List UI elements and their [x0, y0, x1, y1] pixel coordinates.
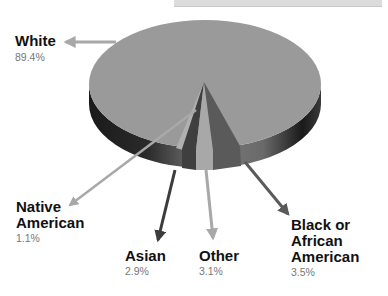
arrow-black — [245, 162, 288, 214]
pct-native-american: 1.1% — [16, 232, 40, 244]
pct-white: 89.4% — [15, 51, 45, 63]
label-native-american-line2: American — [16, 215, 84, 231]
label-asian: Asian — [125, 248, 166, 264]
label-native-american-line1: Native — [16, 199, 61, 215]
arrow-asian — [158, 170, 175, 240]
label-black-line1: Black or — [291, 217, 350, 233]
arrow-other — [206, 170, 213, 238]
label-black-line3: American — [291, 249, 359, 265]
pct-black: 3.5% — [291, 266, 315, 278]
pct-other: 3.1% — [199, 265, 223, 277]
label-other: Other — [199, 248, 239, 264]
pct-asian: 2.9% — [125, 265, 149, 277]
label-black-line2: African — [291, 233, 343, 249]
label-white: White — [15, 33, 56, 49]
